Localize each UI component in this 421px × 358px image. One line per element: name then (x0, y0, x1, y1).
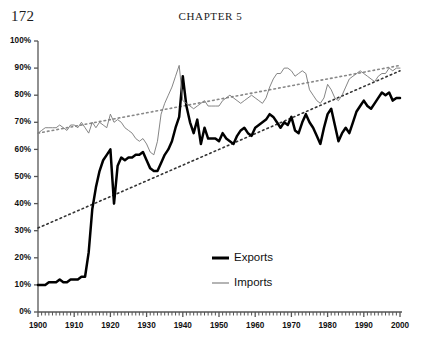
y-tick-label: 40% (15, 199, 32, 208)
x-tick-label: 1910 (65, 321, 84, 330)
x-tick-label: 1930 (137, 321, 156, 330)
x-tick-label: 1920 (101, 321, 120, 330)
legend-label[interactable]: Imports (234, 276, 273, 288)
y-tick-label: 0% (19, 307, 32, 316)
y-tick-label: 90% (15, 63, 32, 72)
y-tick-label: 10% (15, 280, 32, 289)
axis-lines (38, 41, 402, 312)
chapter-header: CHAPTER 5 (0, 10, 421, 22)
x-tick-label: 1950 (210, 321, 229, 330)
y-tick-label: 70% (15, 117, 32, 126)
x-tick-label: 1960 (246, 321, 265, 330)
data-series (38, 65, 400, 285)
x-tick-label: 1900 (29, 321, 48, 330)
y-tick-label: 50% (15, 172, 32, 181)
y-tick-label: 80% (15, 90, 32, 99)
chart-canvas: 0%10%20%30%40%50%60%70%80%90%100% 190019… (0, 30, 421, 358)
y-axis-ticks: 0%10%20%30%40%50%60%70%80%90%100% (10, 36, 38, 316)
y-tick-label: 20% (15, 253, 32, 262)
x-axis-ticks: 1900191019201930194019501960197019801990… (29, 312, 410, 330)
x-tick-label: 1990 (355, 321, 374, 330)
x-tick-label: 1980 (318, 321, 337, 330)
x-tick-label: 1970 (282, 321, 301, 330)
y-tick-label: 30% (15, 226, 32, 235)
legend-label[interactable]: Exports (234, 251, 273, 263)
x-tick-label: 1940 (174, 321, 193, 330)
line-chart: 0%10%20%30%40%50%60%70%80%90%100% 190019… (0, 30, 421, 358)
series-line (38, 76, 400, 285)
book-page: 172 CHAPTER 5 0%10%20%30%40%50%60%70%80%… (0, 0, 421, 358)
y-tick-label: 60% (15, 145, 32, 154)
y-tick-label: 100% (10, 36, 32, 45)
chart-legend[interactable]: ExportsImports (212, 251, 273, 288)
x-tick-label: 2000 (391, 321, 410, 330)
